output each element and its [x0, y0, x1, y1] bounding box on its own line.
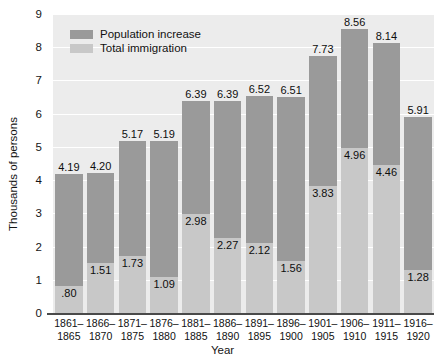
- x-tick-line: 1880: [146, 330, 182, 343]
- legend-swatch-icon: [70, 44, 93, 53]
- bar-value-label-immigration: 1.28: [407, 271, 428, 283]
- y-tick-label: 1: [36, 274, 42, 286]
- bar-value-label-population: 6.39: [217, 88, 238, 100]
- bar-total-immigration: [182, 214, 210, 313]
- bar-value-label-immigration: 1.09: [153, 278, 174, 290]
- y-tick-label: 7: [36, 74, 42, 86]
- bar-group: 5.171.73: [119, 14, 147, 313]
- y-tick-label: 0: [36, 307, 42, 319]
- bar-value-label-population: 6.39: [185, 88, 206, 100]
- x-tick-line: 1866–: [83, 317, 119, 330]
- bar-group: 5.911.28: [404, 14, 432, 313]
- x-tick-line: 1911–: [369, 317, 405, 330]
- x-axis-title: Year: [0, 344, 445, 356]
- x-tick-line: 1886–: [210, 317, 246, 330]
- x-tick-label: 1886–1890: [210, 317, 246, 342]
- bar-group: 6.392.98: [182, 14, 210, 313]
- x-tick-line: 1905: [305, 330, 341, 343]
- x-tick-line: 1910: [337, 330, 373, 343]
- bar-value-label-immigration: 2.98: [185, 215, 206, 227]
- bar-value-label-population: 8.56: [344, 16, 365, 28]
- plot-area: 4.19.804.201.515.171.735.191.096.392.986…: [53, 14, 434, 313]
- x-tick-line: 1890: [210, 330, 246, 343]
- y-tick-label: 2: [36, 241, 42, 253]
- bar-group: 6.511.56: [277, 14, 305, 313]
- bar-chart: 0123456789 Thousands of persons 4.19.804…: [0, 0, 445, 364]
- bar-total-immigration: [373, 165, 401, 313]
- bar-group: 8.564.96: [341, 14, 369, 313]
- bar-total-immigration: [341, 148, 369, 313]
- bar-value-label-population: 4.20: [90, 160, 111, 172]
- y-tick-label: 6: [36, 108, 42, 120]
- legend-label: Population increase: [100, 28, 201, 40]
- x-axis: 1861–18651866–18701871–18751876–18801881…: [53, 317, 434, 347]
- bar-value-label-population: 6.51: [280, 84, 301, 96]
- x-tick-label: 1901–1905: [305, 317, 341, 342]
- x-tick-label: 1896–1900: [273, 317, 309, 342]
- bar-value-label-population: 6.52: [249, 83, 270, 95]
- bar-group: 6.392.27: [214, 14, 242, 313]
- x-tick-label: 1911–1915: [369, 317, 405, 342]
- x-tick-label: 1906–1910: [337, 317, 373, 342]
- bar-value-label-immigration: 2.12: [249, 244, 270, 256]
- bar-value-label-population: 5.19: [153, 128, 174, 140]
- x-tick-line: 1885: [178, 330, 214, 343]
- bar-value-label-immigration: .80: [61, 287, 76, 299]
- bar-value-label-population: 4.19: [58, 161, 79, 173]
- x-tick-label: 1916–1920: [400, 317, 436, 342]
- x-tick-label: 1891–1895: [242, 317, 278, 342]
- y-axis-zero-tick: [47, 313, 53, 315]
- bar-value-label-immigration: 4.46: [376, 166, 397, 178]
- bar-group: 7.733.83: [309, 14, 337, 313]
- bar-value-label-immigration: 2.27: [217, 239, 238, 251]
- bar-group: 6.522.12: [246, 14, 274, 313]
- x-tick-line: 1901–: [305, 317, 341, 330]
- legend-swatch-icon: [70, 30, 93, 39]
- bar-value-label-population: 8.14: [376, 30, 397, 42]
- x-tick-label: 1866–1870: [83, 317, 119, 342]
- x-tick-line: 1865: [51, 330, 87, 343]
- x-tick-line: 1876–: [146, 317, 182, 330]
- bar-group: 5.191.09: [150, 14, 178, 313]
- y-tick-label: 4: [36, 174, 42, 186]
- bar-group: 4.201.51: [87, 14, 115, 313]
- x-tick-line: 1871–: [115, 317, 151, 330]
- x-tick-label: 1861–1865: [51, 317, 87, 342]
- y-tick-label: 5: [36, 141, 42, 153]
- x-tick-label: 1871–1875: [115, 317, 151, 342]
- y-tick-label: 8: [36, 41, 42, 53]
- bar-group: 8.144.46: [373, 14, 401, 313]
- bar-value-label-immigration: 3.83: [312, 187, 333, 199]
- x-tick-line: 1891–: [242, 317, 278, 330]
- x-tick-line: 1896–: [273, 317, 309, 330]
- x-tick-label: 1881–1885: [178, 317, 214, 342]
- bar-value-label-immigration: 1.73: [122, 257, 143, 269]
- y-tick-label: 9: [36, 8, 42, 20]
- bar-value-label-population: 7.73: [312, 43, 333, 55]
- x-tick-line: 1895: [242, 330, 278, 343]
- x-tick-line: 1861–: [51, 317, 87, 330]
- y-axis-title: Thousands of persons: [7, 64, 19, 284]
- bar-group: 4.19.80: [55, 14, 83, 313]
- x-tick-line: 1875: [115, 330, 151, 343]
- bar-value-label-immigration: 1.56: [280, 262, 301, 274]
- bar-value-label-immigration: 1.51: [90, 264, 111, 276]
- x-tick-line: 1920: [400, 330, 436, 343]
- legend-item: Total immigration: [70, 42, 201, 54]
- legend-label: Total immigration: [100, 42, 187, 54]
- bar-value-label-immigration: 4.96: [344, 149, 365, 161]
- bar-value-label-population: 5.17: [122, 128, 143, 140]
- legend-item: Population increase: [70, 28, 201, 40]
- bar-value-label-population: 5.91: [407, 104, 428, 116]
- bar-total-immigration: [309, 186, 337, 313]
- x-tick-line: 1881–: [178, 317, 214, 330]
- x-axis-line: [53, 313, 434, 315]
- x-tick-label: 1876–1880: [146, 317, 182, 342]
- x-tick-line: 1906–: [337, 317, 373, 330]
- x-tick-line: 1870: [83, 330, 119, 343]
- legend: Population increaseTotal immigration: [70, 28, 201, 56]
- x-tick-line: 1916–: [400, 317, 436, 330]
- y-tick-label: 3: [36, 207, 42, 219]
- x-tick-line: 1915: [369, 330, 405, 343]
- x-tick-line: 1900: [273, 330, 309, 343]
